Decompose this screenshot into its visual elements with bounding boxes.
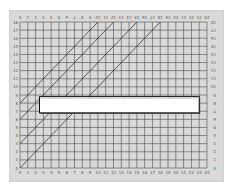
x-axis-label-top: 3: [42, 15, 45, 20]
x-axis-label-top: 8: [81, 15, 84, 20]
x-axis-label-top: 1: [26, 15, 29, 20]
x-axis-label-bottom: 16: [142, 170, 148, 175]
y-axis-label-left: 17: [13, 28, 19, 33]
y-axis-label-left: 3: [15, 141, 18, 146]
y-axis-label-left: 15: [13, 44, 19, 49]
y-axis-label-right: 0: [213, 166, 216, 171]
x-axis-label-top: 18: [157, 15, 163, 20]
x-axis-label-bottom: 7: [73, 170, 76, 175]
y-axis-label-right: 12: [210, 68, 216, 73]
y-axis-label-left: 10: [13, 84, 19, 89]
x-axis-label-bottom: 2: [34, 170, 37, 175]
x-axis-label-bottom: 8: [81, 170, 84, 175]
y-axis-label-left: 6: [15, 117, 18, 122]
y-axis-label-left: 8: [15, 101, 18, 106]
x-axis-label-bottom: 3: [42, 170, 45, 175]
y-axis-label-right: 7: [213, 109, 216, 114]
x-axis-label-bottom: 17: [150, 170, 156, 175]
x-axis-label-top: 5: [57, 15, 60, 20]
x-axis-label-bottom: 12: [111, 170, 117, 175]
x-axis-label-top: 14: [126, 15, 132, 20]
x-axis-label-bottom: 15: [134, 170, 140, 175]
y-axis-label-right: 3: [213, 141, 216, 146]
x-axis-label-top: 21: [181, 15, 187, 20]
y-axis-label-left: 1: [15, 157, 18, 162]
y-axis-label-right: 9: [213, 93, 216, 98]
x-axis-label-top: 9: [88, 15, 91, 20]
x-axis-label-bottom: 6: [65, 170, 68, 175]
y-axis-label-right: 5: [213, 125, 216, 130]
y-axis-label-left: 9: [15, 93, 18, 98]
x-axis-label-top: 16: [142, 15, 148, 20]
y-axis-label-left: 12: [13, 68, 19, 73]
grid-chart: 0011223344556677889910101111121213131414…: [0, 0, 227, 190]
x-axis-label-bottom: 1: [27, 170, 30, 175]
x-axis-label-top: 12: [111, 15, 117, 20]
x-axis-label-top: 22: [188, 15, 194, 20]
y-axis-label-right: 17: [210, 28, 216, 33]
x-axis-label-bottom: 20: [173, 170, 179, 175]
y-axis-label-right: 6: [213, 117, 216, 122]
x-axis-label-top: 19: [165, 15, 171, 20]
x-axis-label-top: 6: [65, 15, 68, 20]
x-axis-label-top: 0: [18, 15, 21, 20]
y-axis-label-left: 5: [15, 125, 18, 130]
y-axis-label-left: 14: [13, 52, 19, 57]
x-axis-label-top: 23: [196, 15, 202, 20]
x-axis-label-top: 10: [95, 15, 101, 20]
y-axis-label-left: 18: [13, 20, 19, 25]
x-axis-label-top: 13: [118, 15, 124, 20]
y-axis-label-left: 13: [13, 60, 19, 65]
y-axis-label-right: 4: [213, 133, 216, 138]
x-axis-label-top: 7: [73, 15, 76, 20]
y-axis-label-right: 10: [210, 84, 216, 89]
y-axis-label-left: 4: [15, 133, 18, 138]
y-axis-label-right: 1: [213, 157, 216, 162]
x-axis-label-top: 17: [149, 15, 155, 20]
y-axis-label-right: 15: [210, 44, 216, 49]
x-axis-label-top: 20: [173, 15, 179, 20]
x-axis-label-bottom: 5: [58, 170, 61, 175]
x-axis-label-bottom: 13: [119, 170, 125, 175]
overlay-box: [39, 97, 199, 113]
y-axis-label-right: 16: [210, 36, 216, 41]
y-axis-label-right: 18: [210, 20, 216, 25]
x-axis-label-bottom: 9: [89, 170, 92, 175]
x-axis-label-bottom: 14: [127, 170, 133, 175]
x-axis-label-bottom: 10: [95, 170, 101, 175]
x-axis-label-bottom: 19: [165, 170, 171, 175]
y-axis-label-left: 16: [13, 36, 19, 41]
y-axis-label-left: 2: [15, 149, 18, 154]
x-axis-label-bottom: 23: [197, 170, 203, 175]
x-axis-label-top: 2: [34, 15, 37, 20]
x-axis-label-top: 24: [204, 15, 210, 20]
x-axis-label-bottom: 18: [158, 170, 164, 175]
y-axis-label-right: 2: [213, 149, 216, 154]
x-axis-label-top: 4: [49, 15, 52, 20]
x-axis-label-bottom: 4: [50, 170, 53, 175]
x-axis-label-bottom: 24: [204, 170, 210, 175]
x-axis-label-bottom: 11: [103, 170, 109, 175]
y-axis-label-right: 8: [213, 101, 216, 106]
x-axis-label-top: 15: [134, 15, 140, 20]
diagonal-line: [20, 22, 137, 144]
x-axis-label-bottom: 0: [19, 170, 22, 175]
x-axis-label-bottom: 22: [189, 170, 195, 175]
x-axis-label-top: 11: [103, 15, 109, 20]
y-axis-label-right: 11: [210, 76, 216, 81]
y-axis-label-right: 14: [210, 52, 216, 57]
y-axis-label-left: 11: [13, 76, 19, 81]
y-axis-label-left: 7: [15, 109, 18, 114]
y-axis-label-right: 13: [210, 60, 216, 65]
x-axis-label-bottom: 21: [181, 170, 187, 175]
